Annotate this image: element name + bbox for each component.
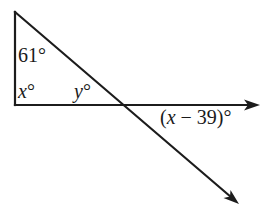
angle-label-x: x° [17,80,35,102]
geometry-diagram: 61° x° y° (x − 39)° [0,0,273,217]
angle-label-exterior: (x − 39)° [160,106,232,129]
angle-label-y: y° [72,80,91,103]
angle-label-top: 61° [18,44,46,66]
